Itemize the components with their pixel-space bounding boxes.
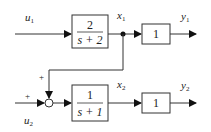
g2-numerator: 1 [87,88,93,102]
svg-text:u1: u1 [25,11,35,25]
transfer-block-g1: 2 s + 2 [72,15,108,48]
block-diagram: u1 2 s + 2 x1 1 y1 + + u2 1 s + 1 x2 1 [0,0,211,132]
g2-denominator: s + 1 [78,105,103,119]
summing-junction [45,99,53,107]
g1-denominator: s + 2 [78,33,103,47]
u2-label: u2 [24,114,34,128]
sum-sign-top: + [39,72,44,82]
gain-block-k1: 1 [142,24,170,44]
y2-label: y2 [180,79,190,93]
u1-sub: 1 [31,17,35,25]
x1-label: x1 [116,9,126,23]
g1-numerator: 2 [87,18,93,32]
transfer-block-g2: 1 s + 1 [72,85,108,121]
input-u1: u1 [15,11,71,34]
k2-gain: 1 [153,96,159,110]
gain-block-k2: 1 [142,93,170,113]
x2-label: x2 [116,78,126,92]
k1-gain: 1 [153,27,159,41]
sum-sign-left: + [25,91,30,101]
y1-label: y1 [180,10,190,24]
